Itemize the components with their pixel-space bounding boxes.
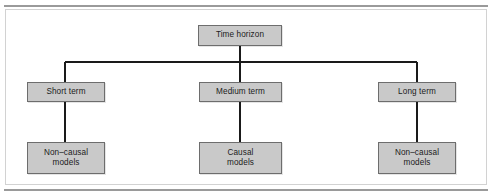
- node-time-horizon: Time horizon: [198, 25, 282, 46]
- node-short-term: Short term: [27, 82, 105, 102]
- tree-diagram-figure: Time horizon Short term Medium term Long…: [0, 0, 498, 196]
- node-medium-term: Medium term: [199, 82, 282, 102]
- node-non-causal-models-right: Non–causal models: [378, 142, 456, 174]
- node-causal-models: Causal models: [199, 142, 282, 174]
- node-non-causal-models-left: Non–causal models: [27, 142, 105, 174]
- top-rule: [4, 5, 488, 7]
- bottom-rule: [4, 189, 488, 191]
- node-long-term: Long term: [378, 82, 456, 102]
